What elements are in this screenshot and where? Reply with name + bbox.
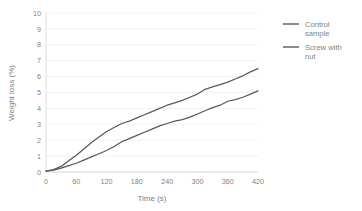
y-tick-labels-group: 012345678910 [33,9,41,177]
x-tick-labels-group: 060120180240300360420 [44,177,264,186]
chart-canvas: 012345678910 060120180240300360420 Contr… [0,0,362,211]
x-tick-label-240: 240 [161,177,173,186]
y-tick-label-7: 7 [37,56,41,65]
legend-label-1-line1: Screw with [305,43,342,52]
y-tick-label-5: 5 [37,88,41,97]
y-tick-label-6: 6 [37,72,41,81]
x-tick-label-0: 0 [44,177,48,186]
y-tick-label-0: 0 [37,168,41,177]
legend-group: ControlsampleScrew withnut [283,20,342,61]
y-tick-label-8: 8 [37,40,41,49]
legend-label-0-line1: Control [305,20,330,29]
y-tick-label-3: 3 [37,120,41,129]
legend-label-1-line2: nut [305,52,316,61]
x-tick-label-420: 420 [252,177,264,186]
x-tick-label-300: 300 [191,177,203,186]
x-tick-label-180: 180 [131,177,143,186]
x-axis-title: Time (s) [137,194,166,203]
legend-label-0-line2: sample [305,29,329,38]
gridlines-group [46,13,258,172]
y-tick-label-4: 4 [37,104,41,113]
y-axis-title: Weight loss (%) [7,65,16,121]
y-tick-label-10: 10 [33,9,41,18]
y-tick-label-1: 1 [37,152,41,161]
x-tick-label-120: 120 [101,177,113,186]
y-tick-label-9: 9 [37,25,41,34]
weight-loss-line-chart: 012345678910 060120180240300360420 Contr… [0,0,362,211]
x-tick-label-60: 60 [72,177,80,186]
x-tick-label-360: 360 [222,177,234,186]
y-tick-label-2: 2 [37,136,41,145]
series-line-1 [46,91,258,171]
